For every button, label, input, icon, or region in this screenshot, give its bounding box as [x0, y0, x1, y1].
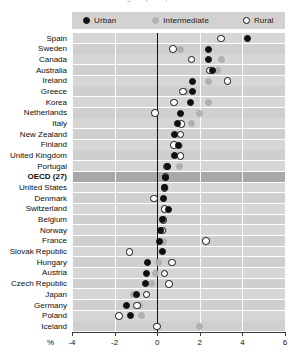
- data-point-urban: [171, 131, 178, 138]
- chart-legend: Urban Intermediate Rural: [72, 12, 285, 29]
- legend-item-intermediate: Intermediate: [152, 16, 209, 25]
- data-point-rural: [115, 312, 123, 320]
- data-point-urban: [171, 152, 178, 159]
- x-tick-4: [242, 332, 243, 336]
- legend-label-urban: Urban: [94, 16, 116, 25]
- gridline-x--2: [115, 33, 116, 332]
- x-axis-line: [72, 332, 285, 333]
- data-point-inter: [155, 259, 162, 266]
- x-tick-label-2: 2: [190, 338, 210, 347]
- data-point-urban: [187, 99, 194, 106]
- data-point-urban: [189, 78, 196, 85]
- data-point-rural: [179, 88, 187, 96]
- x-tick-label--4: -4: [62, 338, 82, 347]
- data-point-rural: [177, 152, 185, 160]
- x-tick--2: [115, 332, 116, 336]
- legend-item-rural: Rural: [243, 16, 274, 25]
- data-point-rural: [151, 109, 159, 117]
- data-point-urban: [156, 238, 163, 245]
- data-point-rural: [170, 99, 178, 107]
- data-point-inter: [176, 163, 183, 170]
- data-point-urban: [143, 270, 150, 277]
- chart-title: Figure (cont.): [0, 0, 288, 2]
- data-point-urban: [205, 46, 212, 53]
- x-tick--4: [72, 332, 73, 336]
- data-point-urban: [175, 142, 182, 149]
- data-point-inter: [196, 110, 203, 117]
- legend-label-rural: Rural: [254, 16, 274, 25]
- gridline-x--4: [72, 33, 73, 332]
- open-circle-icon: [243, 17, 250, 24]
- data-point-rural: [133, 302, 141, 310]
- data-point-rural: [217, 35, 225, 43]
- data-point-urban: [244, 35, 251, 42]
- data-point-urban: [209, 67, 216, 74]
- gray-circle-icon: [152, 17, 159, 24]
- data-point-rural: [169, 45, 177, 53]
- legend-label-intermediate: Intermediate: [163, 16, 209, 25]
- plot-area: [72, 33, 285, 332]
- chart-title-clipped: Figure (cont.): [0, 0, 288, 7]
- data-point-rural: [202, 237, 210, 245]
- data-point-inter: [205, 78, 212, 85]
- data-point-urban: [162, 174, 169, 181]
- data-point-rural: [224, 77, 232, 85]
- x-tick-label--2: -2: [105, 338, 125, 347]
- filled-circle-icon: [83, 17, 90, 24]
- category-axis-labels: SpainSwedenCanadaAustraliaIrelandGreeceK…: [0, 33, 70, 332]
- category-label-iceland: Iceland: [0, 321, 67, 333]
- data-point-rural: [126, 248, 134, 256]
- x-tick-0: [157, 332, 158, 336]
- x-tick-6: [285, 332, 286, 336]
- data-point-inter: [177, 46, 184, 53]
- data-point-urban: [123, 302, 130, 309]
- data-point-urban: [177, 110, 184, 117]
- x-tick-label-0: 0: [147, 338, 167, 347]
- data-point-urban: [205, 56, 212, 63]
- gridline-x-2: [200, 33, 201, 332]
- data-point-inter: [205, 99, 212, 106]
- zero-reference-line: [157, 33, 158, 332]
- data-point-rural: [165, 280, 173, 288]
- chart-container: Figure (cont.) Urban Intermediate Rural …: [0, 0, 288, 354]
- x-tick-2: [200, 332, 201, 336]
- x-tick-label-4: 4: [232, 338, 252, 347]
- data-point-inter: [218, 56, 225, 63]
- data-point-urban: [157, 227, 164, 234]
- x-axis-unit-label: %: [47, 338, 54, 347]
- gridline-x-4: [242, 33, 243, 332]
- legend-item-urban: Urban: [83, 16, 116, 25]
- data-point-inter: [188, 120, 195, 127]
- data-point-inter: [152, 270, 159, 277]
- data-point-rural: [150, 195, 158, 203]
- x-tick-label-6: 6: [275, 338, 288, 347]
